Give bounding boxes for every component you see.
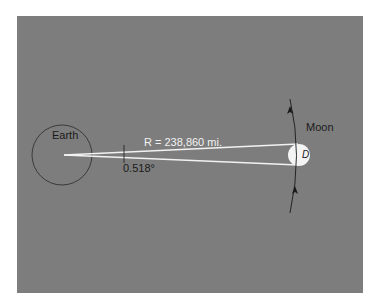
moon-label: Moon	[306, 121, 334, 133]
arrow-up-lower-icon	[292, 186, 298, 194]
lower-ray	[64, 155, 298, 165]
angle-label: 0.518°	[123, 162, 155, 174]
diameter-label: D	[302, 149, 309, 161]
earth-moon-diagram	[0, 0, 370, 308]
distance-label: R = 238,860 mi.	[144, 136, 222, 148]
earth-label: Earth	[52, 129, 78, 141]
